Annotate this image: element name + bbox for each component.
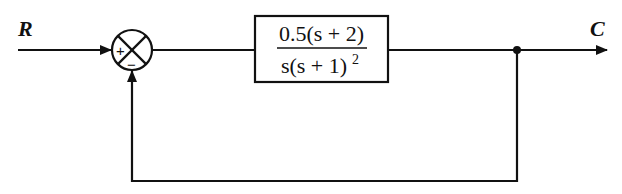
summing-junction: + − [112,30,152,73]
transfer-function-block: 0.5(s + 2) s(s + 1) 2 [255,16,388,82]
plus-sign: + [116,42,125,59]
tf-denominator-exponent: 2 [352,52,359,67]
block-diagram: R + − 0.5(s + 2) s(s + 1) 2 C [0,0,622,194]
tf-numerator: 0.5(s + 2) [279,21,364,46]
minus-sign: − [127,56,136,73]
output-label-c: C [590,16,605,41]
input-label-r: R [17,16,33,41]
tf-denominator: s(s + 1) [281,53,347,78]
